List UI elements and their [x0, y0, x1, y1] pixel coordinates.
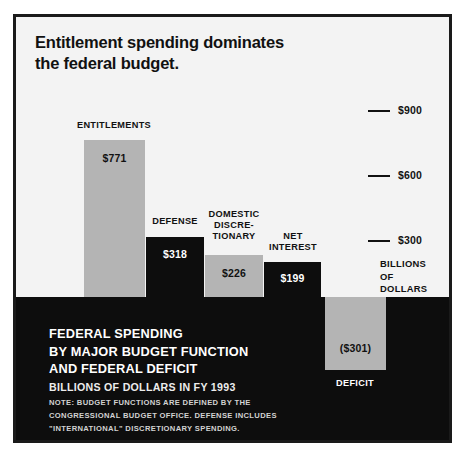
bar-caption-net-interest-line-2: INTEREST [258, 242, 328, 253]
bar-value-net-interest: $199 [264, 272, 321, 284]
bar-caption-net-interest-line-1: NET [258, 231, 328, 242]
panel-heading: FEDERAL SPENDING BY MAJOR BUDGET FUNCTIO… [49, 325, 369, 378]
panel-heading-line-1: FEDERAL SPENDING [49, 325, 369, 343]
bar-defense[interactable]: $318 [146, 237, 204, 297]
panel-note-line-3: "INTERNATIONAL" DISCRETIONARY SPENDING. [49, 422, 394, 435]
y-axis-title: BILLIONS OF DOLLARS [380, 258, 427, 296]
chart-title-line-2: the federal budget. [35, 53, 365, 74]
bar-caption-net-interest: NET INTEREST [258, 231, 328, 253]
bar-value-defense: $318 [146, 248, 204, 260]
bar-entitlements[interactable]: $771 [84, 140, 145, 297]
y-tick-rule-600 [368, 175, 390, 177]
chart-title: Entitlement spending dominates the feder… [35, 32, 365, 74]
panel-subtitle: BILLIONS OF DOLLARS IN FY 1993 [49, 381, 379, 393]
y-axis-title-line-1: BILLIONS [380, 258, 427, 271]
panel-heading-line-3: AND FEDERAL DEFICIT [49, 360, 369, 378]
y-tick-rule-900 [368, 110, 390, 112]
y-axis-title-line-2: OF [380, 271, 427, 284]
bar-net-interest[interactable]: $199 [264, 262, 321, 297]
bar-domestic-discretionary[interactable]: $226 [205, 255, 263, 297]
y-tick-rule-300 [368, 240, 390, 242]
panel-note-line-2: CONGRESSIONAL BUDGET OFFICE. DEFENSE INC… [49, 409, 394, 422]
chart-title-line-1: Entitlement spending dominates [35, 32, 365, 53]
y-tick-label-900: $900 [398, 104, 422, 116]
panel-note: NOTE: BUDGET FUNCTIONS ARE DEFINED BY TH… [49, 396, 394, 435]
bar-caption-entitlements-line-1: ENTITLEMENTS [64, 120, 164, 131]
y-tick-label-300: $300 [398, 234, 422, 246]
bar-caption-domestic-line-1: DOMESTIC [198, 209, 270, 220]
bar-value-entitlements: $771 [84, 152, 145, 164]
panel-note-line-1: NOTE: BUDGET FUNCTIONS ARE DEFINED BY TH… [49, 396, 394, 409]
panel-heading-line-2: BY MAJOR BUDGET FUNCTION [49, 343, 369, 361]
figure-root: Entitlement spending dominates the feder… [0, 0, 467, 465]
bar-caption-domestic-line-2: DISCRE- [198, 220, 270, 231]
y-axis-title-line-3: DOLLARS [380, 283, 427, 296]
y-tick-label-600: $600 [398, 169, 422, 181]
bar-value-domestic-discretionary: $226 [205, 267, 263, 279]
bar-caption-entitlements: ENTITLEMENTS [64, 120, 164, 131]
